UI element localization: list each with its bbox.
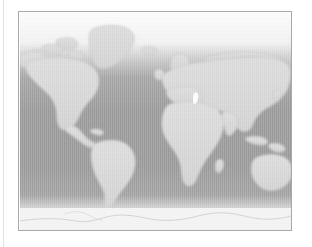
world-map-figure[interactable] [18,11,292,231]
iceland [142,47,158,55]
world-map-image[interactable] [19,12,291,230]
page-margin-rule [3,0,4,247]
